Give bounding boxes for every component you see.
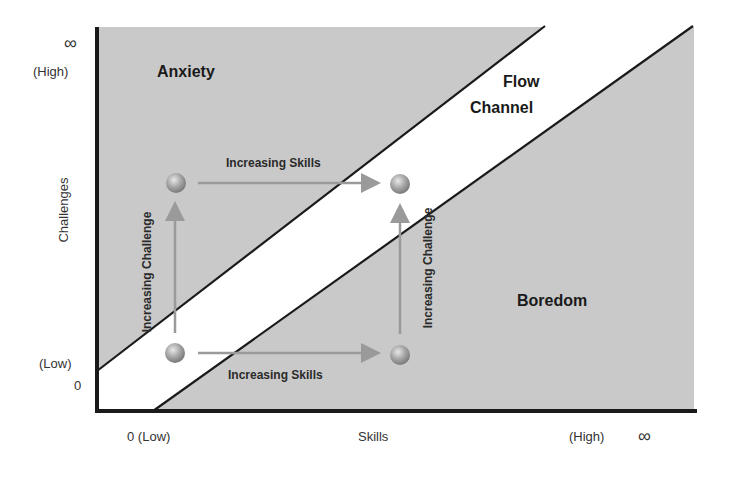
anxiety-region-label: Anxiety	[157, 63, 215, 81]
x-axis-high-label: (High)	[569, 429, 604, 444]
left-arrow-label: Increasing Challenge	[140, 212, 154, 333]
node-sphere-icon	[390, 345, 410, 365]
flow-channel-diagram: ∞ (High) Challenges (Low) 0 0 (Low) Skil…	[0, 0, 735, 480]
x-axis-title: Skills	[358, 429, 388, 444]
node-sphere-icon	[165, 343, 185, 363]
flow-label-line2: Channel	[470, 99, 533, 117]
top-arrow-label: Increasing Skills	[226, 156, 321, 170]
y-axis-low-label: (Low)	[39, 356, 72, 371]
flow-label-line1: Flow	[503, 73, 539, 91]
node-sphere-icon	[166, 173, 186, 193]
x-axis-low-label: 0 (Low)	[127, 429, 170, 444]
y-axis-title: Challenges	[56, 177, 71, 242]
y-axis-infinity-symbol: ∞	[64, 33, 77, 54]
y-axis-zero-label: 0	[74, 378, 81, 393]
diagram-graphics	[0, 0, 735, 480]
boredom-region-label: Boredom	[517, 292, 587, 310]
y-axis-high-label: (High)	[33, 64, 68, 79]
x-axis-infinity-symbol: ∞	[638, 426, 651, 447]
right-arrow-label: Increasing Challenge	[421, 208, 435, 329]
bottom-arrow-label: Increasing Skills	[228, 368, 323, 382]
node-sphere-icon	[390, 174, 410, 194]
